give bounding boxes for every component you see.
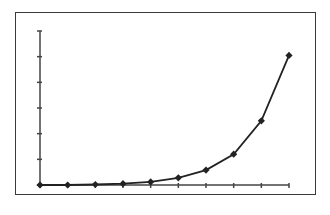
data-point-marker — [92, 181, 99, 188]
line-chart — [0, 0, 330, 215]
data-point-marker — [64, 181, 71, 188]
data-point-marker — [285, 52, 292, 59]
data-point-marker — [175, 174, 182, 181]
series-line — [40, 55, 289, 185]
data-series — [36, 52, 292, 189]
data-point-marker — [202, 167, 209, 174]
axes — [37, 31, 289, 188]
data-point-marker — [119, 180, 126, 187]
data-point-marker — [36, 181, 43, 188]
